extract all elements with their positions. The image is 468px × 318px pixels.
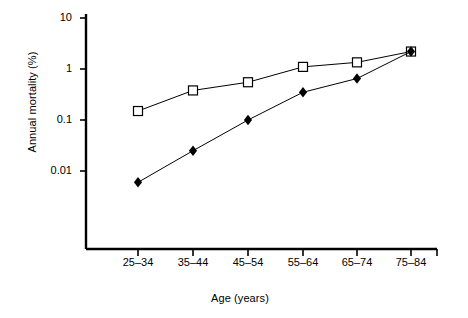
marker-filled-diamond-45–54 <box>244 115 252 125</box>
marker-filled-diamond-55–64 <box>299 87 307 97</box>
marker-open-square-55–64 <box>299 62 308 71</box>
marker-filled-diamond-35–44 <box>189 146 197 156</box>
x-tick-label-45-54: 45–54 <box>221 256 275 268</box>
x-tick-label-65-74: 65–74 <box>330 256 384 268</box>
x-tick-label-75-84: 75–84 <box>384 256 438 268</box>
x-tick-label-35-44: 35–44 <box>166 256 220 268</box>
marker-open-square-35–44 <box>189 86 198 95</box>
y-tick-label-10: 10 <box>28 11 72 23</box>
marker-filled-diamond-65–74 <box>353 73 361 83</box>
y-axis-title: Annual mortality (%) <box>26 32 38 172</box>
marker-open-square-45–54 <box>244 78 253 87</box>
marker-filled-diamond-25–34 <box>134 177 142 187</box>
chart-figure: 10 1 0.1 0.01 25–34 35–44 45–54 55–64 65… <box>0 0 468 318</box>
x-tick-label-25-34: 25–34 <box>111 256 165 268</box>
series-line-open-square-series <box>138 52 411 111</box>
x-axis-title: Age (years) <box>140 292 340 304</box>
marker-open-square-65–74 <box>353 58 362 67</box>
chart-plot-area <box>0 0 468 318</box>
axis-lines <box>86 14 437 249</box>
marker-open-square-25–34 <box>134 107 143 116</box>
x-tick-label-55-64: 55–64 <box>276 256 330 268</box>
data-series-layer <box>134 46 416 187</box>
series-line-filled-diamond-series <box>138 52 411 183</box>
